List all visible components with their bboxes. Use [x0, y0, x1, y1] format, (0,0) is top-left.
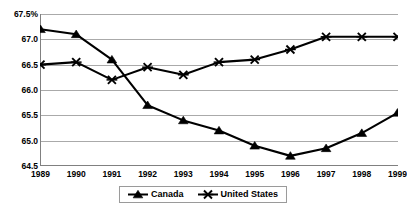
data-point-marker-x — [178, 71, 189, 79]
legend-marker-triangle-icon — [128, 189, 148, 200]
data-series — [40, 25, 398, 159]
x-axis-tick-label: 1996 — [281, 170, 300, 179]
data-point-marker-triangle — [393, 109, 398, 117]
y-axis-tick-labels: 64.565.065.566.066.567.067.5% — [0, 14, 38, 166]
x-axis-tick-label: 1993 — [174, 170, 193, 179]
y-axis-tick-label: 66.5 — [2, 61, 38, 70]
y-axis-tick-label: 67.0 — [2, 35, 38, 44]
x-axis-tick-label: 1990 — [67, 170, 86, 179]
legend-item-label: United States — [221, 190, 279, 199]
x-axis-tick-label: 1995 — [245, 170, 264, 179]
data-point-marker-x — [71, 58, 82, 66]
chart-plot-svg — [40, 14, 398, 166]
plot-area — [40, 14, 398, 166]
x-axis-tick-label: 1994 — [210, 170, 229, 179]
legend-marker-x-icon — [198, 189, 218, 200]
data-point-marker-x — [142, 63, 153, 71]
legend-item-label: Canada — [151, 190, 184, 199]
x-axis-tick-label: 1992 — [138, 170, 157, 179]
data-point-marker-x — [249, 56, 260, 64]
y-axis-tick-label: 66.0 — [2, 86, 38, 95]
y-axis-tick-label: 65.0 — [2, 137, 38, 146]
x-axis-tick-label: 1997 — [317, 170, 336, 179]
legend-item[interactable]: Canada — [128, 189, 184, 200]
x-axis-tick-labels: 1989199019911992199319941995199619971998… — [40, 169, 398, 183]
data-series-layer — [40, 25, 398, 159]
legend-item[interactable]: United States — [198, 189, 279, 200]
series-line — [41, 37, 398, 80]
data-point-marker-x — [214, 58, 225, 66]
data-point-marker-x — [107, 76, 118, 84]
data-point-marker-x — [202, 190, 213, 198]
x-axis-tick-label: 1989 — [31, 170, 50, 179]
x-axis-tick-label: 1999 — [388, 170, 407, 179]
data-point-marker-x — [285, 45, 296, 53]
chart-legend: CanadaUnited States — [119, 186, 287, 203]
y-axis-tick-label: 67.5% — [2, 10, 38, 19]
x-axis-tick-label: 1998 — [352, 170, 371, 179]
x-axis-tick-label: 1991 — [102, 170, 121, 179]
data-series — [40, 33, 398, 84]
series-line — [41, 29, 398, 156]
y-axis-tick-label: 65.5 — [2, 111, 38, 120]
